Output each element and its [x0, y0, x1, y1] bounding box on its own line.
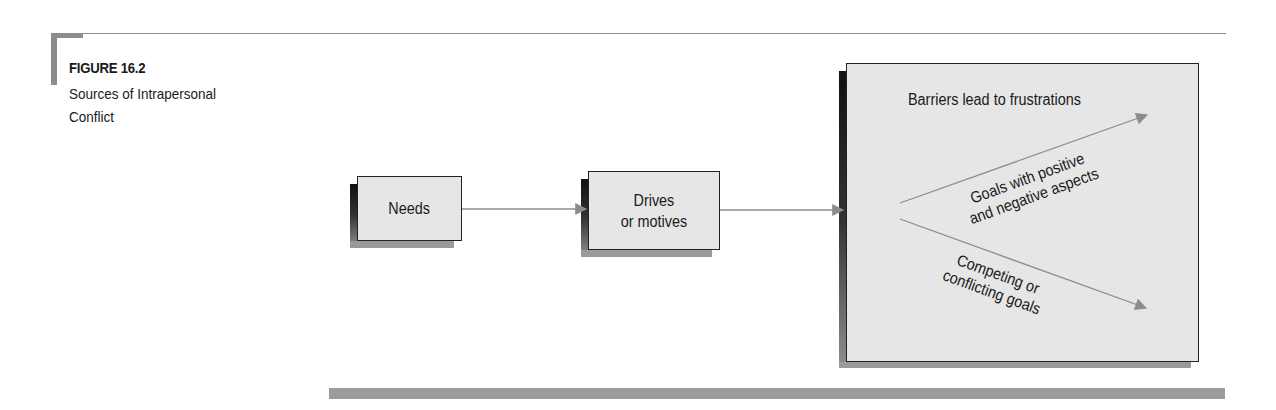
connector-arrows	[0, 0, 1276, 410]
barriers-label: Barriers lead to frustrations	[908, 90, 1081, 109]
bottom-rule	[329, 388, 1225, 399]
